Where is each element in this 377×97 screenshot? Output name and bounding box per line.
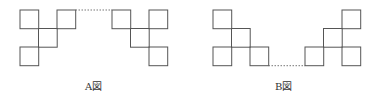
figure-a-left-group [20, 10, 76, 66]
square [20, 10, 39, 29]
square [250, 47, 269, 66]
figure-a-right-group [112, 10, 168, 66]
square [131, 29, 150, 48]
square [305, 47, 324, 66]
figure-b-label: B図 [275, 78, 292, 93]
square [342, 47, 361, 66]
figure-b-right-group [305, 10, 361, 66]
square [324, 29, 343, 48]
figure-a-label: A図 [85, 78, 102, 93]
square [149, 10, 168, 29]
square [342, 10, 361, 29]
square [149, 47, 168, 66]
square [112, 10, 131, 29]
figure-b-left-group [213, 10, 269, 66]
square [20, 47, 39, 66]
square [232, 29, 251, 48]
square [39, 29, 58, 48]
figure-a [20, 10, 168, 66]
figure-b [213, 10, 361, 66]
square [213, 47, 232, 66]
square [57, 10, 76, 29]
square [213, 10, 232, 29]
diagram-canvas [0, 0, 377, 97]
